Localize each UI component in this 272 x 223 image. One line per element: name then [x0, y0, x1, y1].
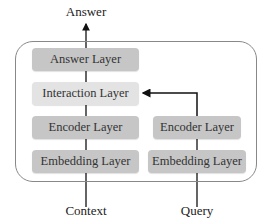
query-input-label: Query — [167, 203, 227, 219]
context-encoder-layer-box: Encoder Layer — [32, 116, 139, 139]
interaction-layer-box: Interaction Layer — [32, 82, 139, 105]
answer-output-label: Answer — [56, 4, 116, 20]
context-embedding-layer-box: Embedding Layer — [32, 150, 139, 173]
query-encoder-layer-box: Encoder Layer — [153, 116, 241, 139]
context-input-label: Context — [56, 203, 116, 219]
query-embedding-layer-box: Embedding Layer — [148, 150, 246, 173]
answer-layer-box: Answer Layer — [32, 48, 139, 71]
